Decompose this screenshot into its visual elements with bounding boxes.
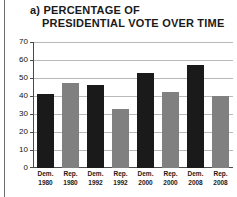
y-tick-label-60: 60 (6, 56, 28, 64)
y-tick-label-70: 70 (6, 38, 28, 46)
chart-title-line-1: a) PERCENTAGE OF (30, 4, 235, 17)
x-label-party: Rep. (158, 170, 183, 179)
y-tick-label-50: 50 (6, 74, 28, 82)
bar-dem-2000 (137, 73, 154, 168)
x-label-year: 2000 (158, 179, 183, 188)
x-label-year: 1980 (58, 179, 83, 188)
x-label-dem-1980: Dem.1980 (33, 170, 58, 187)
x-label-party: Dem. (83, 170, 108, 179)
x-label-year: 2008 (208, 179, 233, 188)
figure-left-rule (4, 0, 5, 197)
x-label-party: Rep. (208, 170, 233, 179)
y-tick-label-30: 30 (6, 110, 28, 118)
y-tick-label-20: 20 (6, 128, 28, 136)
bar-rep-1980 (62, 83, 79, 168)
x-label-party: Rep. (58, 170, 83, 179)
x-label-rep-1980: Rep.1980 (58, 170, 83, 187)
x-label-year: 1980 (33, 179, 58, 188)
x-label-year: 1992 (83, 179, 108, 188)
x-label-rep-2000: Rep.2000 (158, 170, 183, 187)
bar-dem-1980 (37, 94, 54, 168)
x-label-year: 2000 (133, 179, 158, 188)
x-label-year: 2008 (183, 179, 208, 188)
x-label-year: 1992 (108, 179, 133, 188)
x-label-dem-2000: Dem.2000 (133, 170, 158, 187)
x-label-rep-2008: Rep.2008 (208, 170, 233, 187)
y-tick-label-0: 0 (6, 164, 28, 172)
chart-figure: a) PERCENTAGE OF PRESIDENTIAL VOTE OVER … (0, 0, 237, 197)
bar-rep-1992 (112, 109, 129, 168)
x-label-party: Dem. (33, 170, 58, 179)
y-tick-label-40: 40 (6, 92, 28, 100)
x-label-party: Dem. (133, 170, 158, 179)
x-axis-labels: Dem.1980Rep.1980Dem.1992Rep.1992Dem.2000… (33, 170, 233, 194)
bar-rep-2000 (162, 92, 179, 168)
chart-title-line-2: PRESIDENTIAL VOTE OVER TIME (30, 17, 235, 30)
chart-title: a) PERCENTAGE OF PRESIDENTIAL VOTE OVER … (30, 4, 235, 30)
bar-rep-2008 (212, 96, 229, 168)
bar-dem-1992 (87, 85, 104, 168)
bar-dem-2008 (187, 65, 204, 168)
x-label-party: Dem. (183, 170, 208, 179)
x-label-party: Rep. (108, 170, 133, 179)
x-label-dem-1992: Dem.1992 (83, 170, 108, 187)
y-tick-label-10: 10 (6, 146, 28, 154)
x-label-dem-2008: Dem.2008 (183, 170, 208, 187)
x-label-rep-1992: Rep.1992 (108, 170, 133, 187)
plot-area: 010203040506070 (33, 42, 233, 168)
bar-series (33, 42, 233, 168)
